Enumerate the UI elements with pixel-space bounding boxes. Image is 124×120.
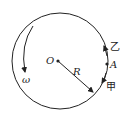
object-yi-label: 乙 [110, 41, 120, 52]
radius-label: R [72, 66, 81, 77]
omega-label: ω [22, 74, 30, 85]
point-a-label: A [109, 59, 117, 70]
circular-motion-diagram: ω O R A 乙 甲 [0, 0, 124, 120]
object-jia-label: 甲 [106, 81, 116, 92]
point-a [105, 62, 108, 65]
center-label: O [46, 55, 54, 66]
track-circle [12, 13, 108, 109]
rotation-arrow-icon [24, 26, 33, 72]
